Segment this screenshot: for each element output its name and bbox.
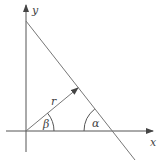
- radius-label: r: [51, 95, 57, 108]
- diagram-canvas: y x r β α: [0, 0, 162, 162]
- y-axis-label: y: [31, 4, 39, 17]
- alpha-label: α: [92, 117, 100, 130]
- x-axis-label: x: [150, 136, 157, 149]
- beta-label: β: [42, 118, 49, 131]
- slanted-line: [26, 21, 135, 160]
